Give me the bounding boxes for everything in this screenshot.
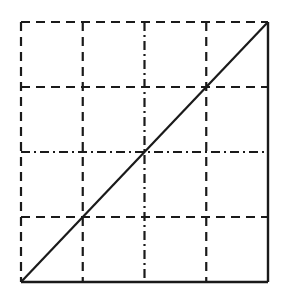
diagonal-grid-chart xyxy=(0,0,290,298)
chart-canvas xyxy=(0,0,290,298)
